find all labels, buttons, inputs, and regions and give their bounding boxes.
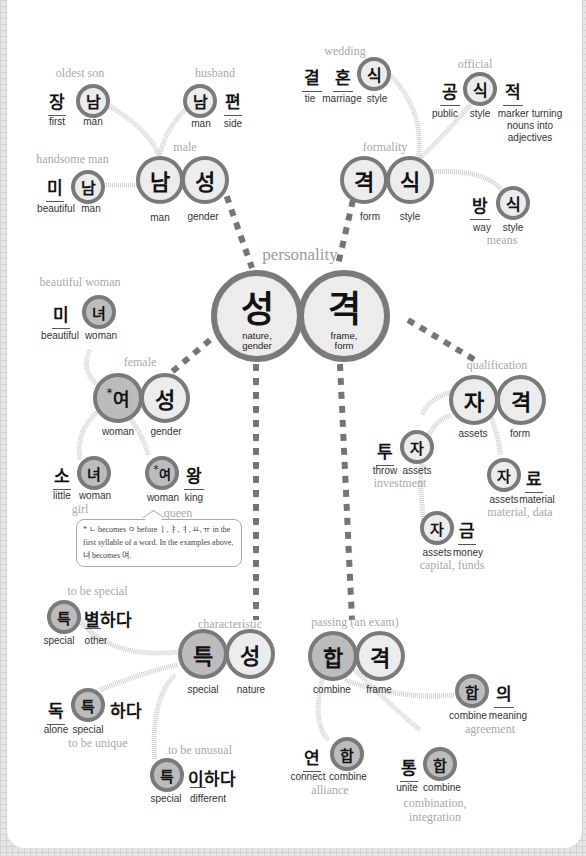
passing-title: passing (an exam) xyxy=(305,615,405,630)
investment-gloss-assets: assets xyxy=(399,465,435,476)
qualification-gloss-assets: assets xyxy=(455,428,491,439)
passing-circle-gyeok: 격 xyxy=(355,631,405,681)
to-be-unique-char-dok: 독 xyxy=(47,697,65,725)
wedding-gloss-tie: tie xyxy=(300,93,320,104)
center-gloss-left-2: gender xyxy=(242,340,272,351)
to-be-unique-title: to be unique xyxy=(62,736,134,751)
oldest-son-gloss-man: man xyxy=(78,116,108,127)
official-char-gong: 공 xyxy=(440,78,460,106)
passing-gloss-frame: frame xyxy=(364,684,394,695)
passing-circle-hap: 합 xyxy=(308,631,358,681)
queen-gloss-king: king xyxy=(182,492,206,503)
center-char-right: 격 xyxy=(328,280,361,332)
queen-gloss-woman: woman xyxy=(145,492,181,503)
to-be-special-gloss-special: special xyxy=(42,635,76,646)
alliance-circle-hap: 합 xyxy=(330,737,364,771)
agreement-circle-hap: 합 xyxy=(455,674,489,708)
to-be-unusual-underline xyxy=(190,787,206,788)
capital-char-geum: 금 xyxy=(458,517,476,545)
to-be-unique-circle-teuk: 특 xyxy=(71,688,105,722)
to-be-unusual-gloss-different: different xyxy=(186,793,230,804)
queen-char-wang: 왕 xyxy=(184,462,204,490)
investment-circle-ja: 자 xyxy=(400,430,434,464)
oldest-son-title: oldest son xyxy=(40,66,120,81)
qualification-circle-ja: 자 xyxy=(449,375,499,425)
means-circle-sik: 식 xyxy=(496,186,530,220)
male-gloss-gender: gender xyxy=(183,211,223,222)
handsome-man-title: handsome man xyxy=(30,152,115,167)
qualification-title: qualification xyxy=(462,358,532,373)
center-circle-seong: 성 nature, gender xyxy=(211,270,303,362)
combination-gloss-unite: unite xyxy=(395,782,419,793)
girl-title: girl xyxy=(68,502,92,517)
female-circle-yeo: *여 xyxy=(93,373,143,423)
material-gloss-assets: assets xyxy=(487,494,521,505)
to-be-unusual-circle-teuk: 특 xyxy=(150,758,184,792)
passing-gloss-combine: combine xyxy=(312,684,352,695)
male-circle-seong: 성 xyxy=(181,156,229,204)
investment-gloss-throw: throw xyxy=(370,465,400,476)
handsome-man-char-mi: 미 xyxy=(46,174,64,202)
agreement-title: agreement xyxy=(460,722,520,737)
investment-char-tu: 투 xyxy=(376,438,394,466)
husband-char-pyeon: 편 xyxy=(224,88,242,116)
male-circle-nam: 남 xyxy=(136,156,184,204)
female-gloss-gender: gender xyxy=(146,426,186,437)
to-be-special-gloss-other: other xyxy=(84,635,108,646)
girl-circle-nyeo: 녀 xyxy=(77,456,111,490)
oldest-son-char-jang: 장 xyxy=(48,88,66,116)
agreement-gloss-combine: combine xyxy=(448,710,488,721)
official-gloss-public: public xyxy=(427,108,463,119)
to-be-special-circle-teuk: 특 xyxy=(47,600,81,634)
female-gloss-woman: woman xyxy=(100,426,136,437)
means-char-bang: 방 xyxy=(470,192,490,220)
agreement-gloss-meaning: meaning xyxy=(488,710,528,721)
center-title: personality xyxy=(250,245,350,265)
official-char-jeok: 적 xyxy=(503,78,523,106)
agreement-char-ui: 의 xyxy=(494,680,514,708)
to-be-unique-char-hada: 하다 xyxy=(110,697,142,722)
alliance-title: alliance xyxy=(305,783,355,798)
combination-gloss-combine: combine xyxy=(422,782,462,793)
female-title: female xyxy=(120,355,160,370)
to-be-special-underline xyxy=(85,628,101,629)
wedding-circle-sik: 식 xyxy=(357,57,391,91)
handsome-man-circle-nam: 남 xyxy=(71,170,105,204)
formality-title: formality xyxy=(355,140,415,155)
beautiful-woman-circle-nyeo: 녀 xyxy=(82,295,116,329)
to-be-unusual-gloss-special: special xyxy=(148,793,184,804)
official-title: official xyxy=(455,57,495,72)
beautiful-woman-char-mi: 미 xyxy=(52,301,70,329)
investment-title: investment xyxy=(370,476,430,491)
capital-gloss-assets: assets xyxy=(420,547,454,558)
center-circle-gyeok: 격 frame, form xyxy=(298,270,390,362)
to-be-unique-gloss-special: special xyxy=(70,724,106,735)
husband-title: husband xyxy=(190,66,240,81)
qualification-circle-gyeok: 격 xyxy=(496,375,546,425)
official-gloss-marker: marker turning nouns into adjectives xyxy=(490,108,570,144)
wedding-title: wedding xyxy=(320,44,370,59)
wedding-char-hon: 혼 xyxy=(333,64,353,92)
handsome-man-gloss-man: man xyxy=(76,203,106,214)
queen-star: * xyxy=(154,464,159,475)
formality-circle-sik: 식 xyxy=(386,156,434,204)
capital-gloss-money: money xyxy=(452,547,484,558)
center-gloss-right-2: form xyxy=(335,340,354,351)
oldest-son-circle-nam: 남 xyxy=(76,84,110,118)
characteristic-gloss-nature: nature xyxy=(234,684,268,695)
male-title: male xyxy=(165,140,205,155)
material-gloss-material: material xyxy=(517,494,557,505)
female-star: * xyxy=(107,386,113,400)
beautiful-woman-title: beautiful woman xyxy=(35,275,125,290)
capital-circle-ja: 자 xyxy=(420,511,454,545)
alliance-gloss-connect: connect xyxy=(290,771,326,782)
center-char-left: 성 xyxy=(241,280,274,332)
girl-gloss-little: little xyxy=(50,490,74,501)
material-title: material, data xyxy=(480,505,560,520)
wedding-gloss-marriage: marriage xyxy=(320,93,364,104)
beautiful-woman-gloss-woman: woman xyxy=(84,330,118,341)
oldest-son-gloss-first: first xyxy=(45,116,69,127)
wedding-gloss-style: style xyxy=(362,93,392,104)
formality-circle-gyeok: 격 xyxy=(340,156,388,204)
husband-circle-nam: 남 xyxy=(183,84,217,118)
